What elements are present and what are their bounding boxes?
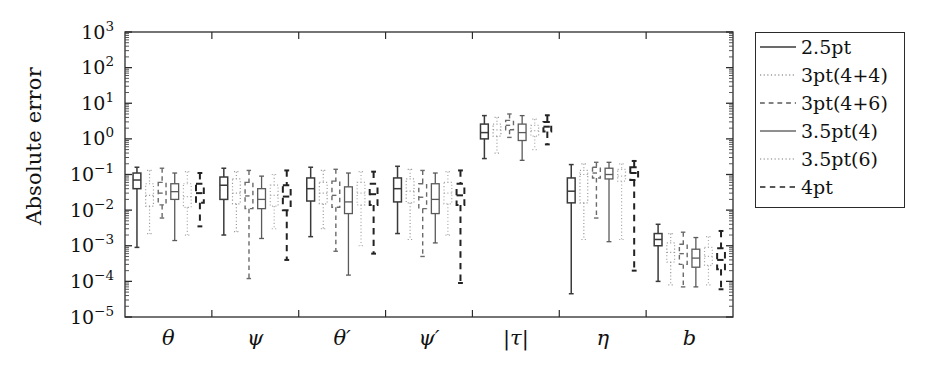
- box: [480, 124, 488, 139]
- x-tick-label: |τ|: [503, 326, 529, 351]
- box: [431, 184, 439, 214]
- legend-line-sample: [758, 153, 798, 165]
- x-tick-label: θ′: [333, 326, 351, 350]
- legend-line-sample: [758, 41, 798, 53]
- y-tick-label: 103: [81, 18, 114, 43]
- y-tick-label: 10−1: [70, 160, 114, 185]
- legend-label: 4pt: [798, 176, 833, 198]
- x-tick-label: ψ′: [418, 326, 439, 350]
- x-tick-label: ψ: [247, 326, 264, 350]
- y-tick-label: 10−5: [70, 303, 114, 328]
- y-tick-label: 10−2: [70, 196, 114, 221]
- legend-line-sample: [758, 125, 798, 137]
- y-tick-label: 10−4: [70, 267, 114, 292]
- box: [220, 177, 228, 199]
- box: [133, 173, 141, 189]
- legend-label: 3.5pt(6): [798, 148, 878, 170]
- box: [605, 168, 613, 179]
- legend-label: 3.5pt(4): [798, 120, 878, 142]
- y-tick-label: 101: [81, 89, 114, 114]
- x-tick-label: η: [596, 326, 609, 350]
- box: [283, 185, 291, 210]
- box: [717, 248, 725, 269]
- box: [394, 178, 402, 202]
- legend-item[interactable]: 2.5pt: [756, 33, 904, 61]
- box: [580, 170, 588, 202]
- legend-item[interactable]: 3pt(4+4): [756, 61, 904, 89]
- box: [618, 169, 626, 181]
- legend-line-sample: [758, 181, 798, 193]
- figure-root: Absolute error 10310210110010−110−210−31…: [0, 0, 940, 377]
- box: [258, 189, 266, 209]
- box: [233, 179, 241, 204]
- legend-label: 3pt(4+4): [798, 64, 888, 86]
- box: [332, 181, 340, 207]
- y-tick-label: 102: [81, 53, 114, 78]
- box: [567, 178, 575, 203]
- legend-line-sample: [758, 69, 798, 81]
- legend-item[interactable]: 3.5pt(4): [756, 117, 904, 145]
- legend-item[interactable]: 3pt(4+6): [756, 89, 904, 117]
- box: [419, 184, 427, 209]
- box: [345, 187, 353, 214]
- y-tick-label: 10−3: [70, 231, 114, 256]
- x-tick-label: θ: [162, 326, 175, 350]
- plot-frame: [125, 32, 733, 317]
- legend-line-sample: [758, 97, 798, 109]
- box: [457, 184, 465, 205]
- legend-label: 2.5pt: [798, 36, 851, 58]
- y-tick-label: 100: [81, 124, 114, 149]
- legend-item[interactable]: 3.5pt(6): [756, 145, 904, 173]
- box: [307, 178, 315, 201]
- box: [183, 184, 191, 208]
- x-tick-label: b: [683, 326, 696, 350]
- legend-label: 3pt(4+6): [798, 92, 888, 114]
- legend-item[interactable]: 4pt: [756, 173, 904, 201]
- legend: 2.5pt3pt(4+4)3pt(4+6)3.5pt(4)3.5pt(6)4pt: [755, 32, 905, 208]
